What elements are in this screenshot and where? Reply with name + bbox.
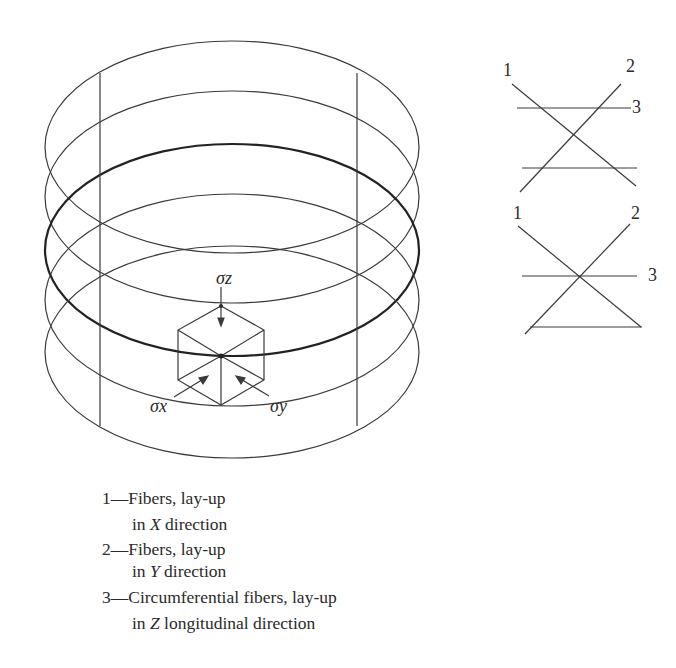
ring-5 bbox=[45, 246, 419, 458]
sigma-y-label: σy bbox=[270, 396, 287, 416]
legend-item-detail: in X direction bbox=[102, 511, 337, 537]
top-label-3: 3 bbox=[632, 97, 641, 117]
legend-item-title: 3—Circumferential fibers, lay-up bbox=[102, 584, 337, 610]
legend-item-detail: in Z longitudinal direction bbox=[102, 610, 337, 636]
sigma-z-label: σz bbox=[216, 268, 232, 288]
legend-item-title: 1—Fibers, lay-up bbox=[102, 485, 337, 511]
ring-3-bold bbox=[45, 144, 419, 356]
top-label-1: 1 bbox=[503, 60, 512, 80]
sigma-x-label: σx bbox=[150, 396, 167, 416]
top-label-2: 2 bbox=[626, 56, 635, 76]
legend: 1—Fibers, lay-up in X direction 2—Fibers… bbox=[102, 485, 337, 636]
legend-item-detail: in Y direction bbox=[102, 558, 337, 584]
bottom-label-2: 2 bbox=[631, 203, 640, 223]
legend-item-1: 1—Fibers, lay-up in X direction bbox=[102, 485, 337, 537]
ring-1 bbox=[45, 41, 419, 253]
fiber-2-line bbox=[525, 224, 630, 334]
bottom-label-1: 1 bbox=[513, 203, 522, 223]
legend-item-3: 3—Circumferential fibers, lay-up in Z lo… bbox=[102, 584, 337, 636]
bottom-label-3: 3 bbox=[648, 265, 657, 285]
layup-schematic-bottom bbox=[518, 224, 642, 334]
ring-2 bbox=[45, 91, 419, 303]
ring-4 bbox=[45, 194, 419, 406]
cylinder bbox=[45, 41, 419, 458]
fiber-2-line bbox=[520, 84, 621, 192]
layup-schematic-top bbox=[512, 84, 637, 192]
legend-item-2: 2—Fibers, lay-up in Y direction bbox=[102, 536, 337, 584]
